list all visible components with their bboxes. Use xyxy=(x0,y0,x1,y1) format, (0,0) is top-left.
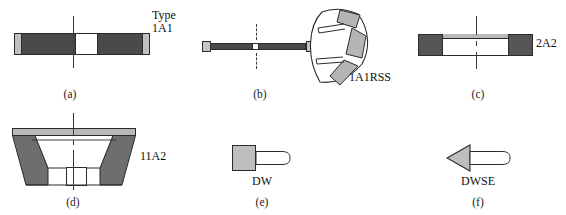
wheel-1a1rss-centerline-top xyxy=(256,24,257,40)
caption-f: (f) xyxy=(472,196,484,208)
caption-a: (a) xyxy=(64,88,77,100)
wheel-2a2-right-block xyxy=(508,34,533,56)
wheel-1a1rss-type-label: 1A1RSS xyxy=(349,71,391,84)
wheel-1a1-diagram xyxy=(14,33,150,55)
tool-dw-svg xyxy=(232,145,294,171)
wheel-1a1rss-right-bar xyxy=(258,43,306,50)
wheel-11a2-centerline-bottom xyxy=(73,150,74,190)
tool-dwse-label: DWSE xyxy=(461,174,495,189)
wheel-1a1-type-code: 1A1 xyxy=(152,22,176,35)
wheel-11a2-type-label: 11A2 xyxy=(140,150,166,163)
wheel-11a2-centerline-mid xyxy=(73,140,74,145)
tool-dwse-svg xyxy=(446,143,514,173)
caption-c: (c) xyxy=(472,88,485,100)
wheel-2a2-centerline-mid xyxy=(476,41,477,46)
tool-dwse-shaft xyxy=(470,152,510,165)
wheel-1a1rss-centerline-bottom xyxy=(256,53,257,69)
tool-dw-label: DW xyxy=(252,174,272,189)
wheel-2a2-centerline-top xyxy=(476,16,477,35)
wheel-1a1-core xyxy=(75,33,98,55)
tool-dwse-diagram xyxy=(446,143,514,173)
wheel-1a1-centerline-mid1 xyxy=(73,40,74,45)
wheel-1a1-right-abrasive xyxy=(97,33,143,55)
caption-b: (b) xyxy=(253,88,266,100)
wheel-2a2-type-label: 2A2 xyxy=(536,37,557,50)
wheel-1a1-type-word: Type xyxy=(152,9,176,22)
tool-dw-shaft xyxy=(256,152,290,165)
figure-grinding-wheel-types: Type 1A1 (a) 1A1RSS (b) xyxy=(0,0,566,215)
wheel-1a1rss-left-bar xyxy=(210,43,253,50)
caption-e: (e) xyxy=(256,196,269,208)
tool-dw-diagram xyxy=(232,145,294,171)
tool-dwse-arrowhead xyxy=(447,145,470,171)
wheel-1a1-centerline-top xyxy=(73,16,74,38)
wheel-11a2-center-slot xyxy=(67,168,87,186)
wheel-1a1-type-label: Type 1A1 xyxy=(152,9,176,34)
wheel-2a2-left-block xyxy=(418,34,443,56)
wheel-11a2-diagram xyxy=(12,128,136,186)
wheel-1a1rss-edge-view xyxy=(202,41,315,52)
wheel-2a2-centerline-bottom xyxy=(476,52,477,69)
wheel-11a2-svg xyxy=(12,128,136,186)
wheel-11a2-top-rail xyxy=(13,129,136,136)
wheel-1a1-left-abrasive xyxy=(21,33,76,55)
caption-d: (d) xyxy=(66,196,79,208)
wheel-11a2-centerline-top xyxy=(73,113,74,135)
wheel-1a1-right-cap xyxy=(142,33,150,55)
wheel-1a1-centerline-bottom xyxy=(73,48,74,68)
